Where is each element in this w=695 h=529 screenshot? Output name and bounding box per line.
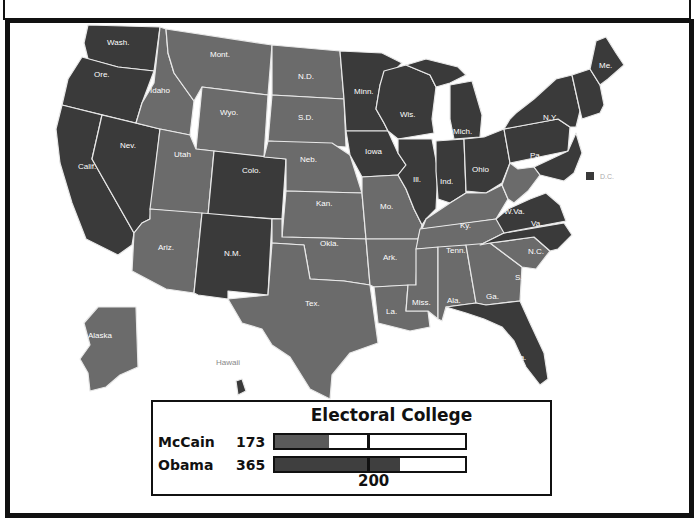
label-okla: Okla. bbox=[320, 239, 339, 248]
electoral-college-panel: Electoral College McCain 173 Obama 365 2… bbox=[151, 400, 552, 496]
label-wyo: Wyo. bbox=[220, 108, 238, 117]
label-la: La. bbox=[386, 307, 397, 316]
state-hawaii bbox=[236, 379, 246, 395]
label-sc: S.C. bbox=[515, 273, 531, 282]
label-mich: Mich. bbox=[453, 127, 472, 136]
label-sd: S.D. bbox=[298, 113, 314, 122]
label-va: Va. bbox=[531, 219, 542, 228]
label-ny: N.Y. bbox=[543, 113, 558, 122]
obama-row: Obama 365 bbox=[158, 456, 467, 473]
obama-bar-fill bbox=[275, 458, 400, 471]
label-nd: N.D. bbox=[298, 72, 314, 81]
state-ny bbox=[504, 75, 580, 129]
threshold-marker bbox=[367, 433, 370, 450]
candidate-name: Obama bbox=[158, 457, 236, 473]
label-alaska: Alaska bbox=[88, 331, 113, 340]
map-figure-frame: Wash. Ore. Calif. Nev. Idaho Mont. Wyo. … bbox=[5, 19, 694, 518]
label-ohio: Ohio bbox=[472, 165, 489, 174]
mccain-progress-bar bbox=[273, 433, 467, 450]
label-ore: Ore. bbox=[94, 70, 110, 79]
electoral-college-title: Electoral College bbox=[153, 405, 550, 425]
label-kan: Kan. bbox=[316, 199, 332, 208]
label-ky: Ky. bbox=[460, 221, 471, 230]
state-colo bbox=[208, 151, 286, 219]
label-ga: Ga. bbox=[486, 292, 499, 301]
label-tex: Tex. bbox=[305, 299, 320, 308]
threshold-label: 200 bbox=[358, 472, 389, 490]
label-ark: Ark. bbox=[383, 253, 397, 262]
state-wyo bbox=[196, 87, 268, 157]
label-ala: Ala. bbox=[447, 296, 461, 305]
label-ill: Ill. bbox=[413, 175, 421, 184]
label-iowa: Iowa bbox=[365, 147, 382, 156]
threshold-marker bbox=[367, 456, 370, 473]
label-wash: Wash. bbox=[107, 38, 129, 47]
label-hawaii: Hawaii bbox=[216, 358, 240, 367]
label-neb: Neb. bbox=[300, 155, 317, 164]
label-me: Me. bbox=[599, 61, 612, 70]
label-colo: Colo. bbox=[242, 166, 261, 175]
label-nc: N.C. bbox=[528, 247, 544, 256]
label-ind: Ind. bbox=[440, 177, 453, 186]
label-nm: N.M. bbox=[224, 249, 241, 258]
label-mont: Mont. bbox=[210, 50, 230, 59]
label-calif: Calif. bbox=[78, 162, 96, 171]
label-wva: W.Va. bbox=[504, 207, 525, 216]
obama-progress-bar bbox=[273, 456, 467, 473]
label-fla: Fla. bbox=[513, 353, 526, 362]
candidate-votes: 173 bbox=[236, 434, 273, 450]
label-wis: Wis. bbox=[400, 110, 416, 119]
label-mo: Mo. bbox=[380, 202, 393, 211]
candidate-name: McCain bbox=[158, 434, 236, 450]
dc-legend: D.C. bbox=[586, 172, 614, 180]
dc-legend-label: D.C. bbox=[600, 173, 614, 180]
label-nev: Nev. bbox=[120, 141, 136, 150]
question-box-partial bbox=[3, 0, 691, 20]
label-tenn: Tenn. bbox=[446, 246, 466, 255]
label-idaho: Idaho bbox=[150, 86, 171, 95]
dc-swatch-icon bbox=[586, 172, 594, 180]
label-ariz: Ariz. bbox=[158, 243, 174, 252]
label-utah: Utah bbox=[174, 150, 191, 159]
label-pa: Pa. bbox=[530, 151, 542, 160]
mccain-bar-fill bbox=[275, 435, 329, 448]
state-alaska bbox=[80, 307, 138, 391]
mccain-row: McCain 173 bbox=[158, 433, 467, 450]
label-minn: Minn. bbox=[354, 87, 374, 96]
state-ind bbox=[436, 139, 466, 203]
state-ark bbox=[366, 239, 418, 287]
state-fla bbox=[446, 301, 548, 385]
candidate-votes: 365 bbox=[236, 457, 273, 473]
label-miss: Miss. bbox=[412, 298, 431, 307]
